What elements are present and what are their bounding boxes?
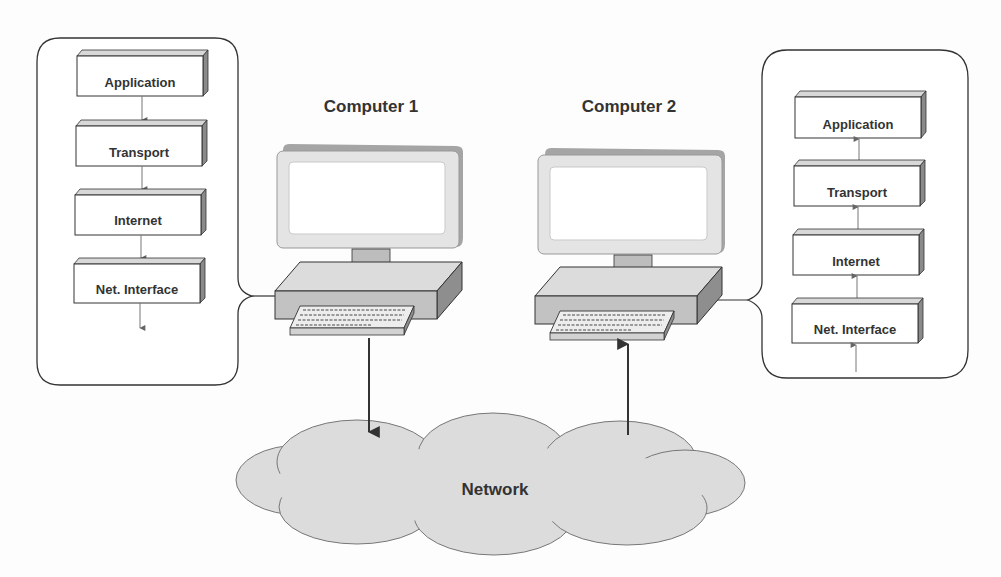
right-layer-transport: Transport [794, 160, 925, 206]
left-layer-net-interface: Net. Interface [74, 258, 205, 303]
layer-label: Internet [832, 254, 880, 269]
right-protocol-stack: Application Transport Internet Net. Inte… [748, 50, 968, 378]
computer-1-label: Computer 1 [324, 97, 418, 116]
computer-1: Computer 1 [275, 97, 463, 335]
layer-label: Net. Interface [96, 282, 178, 297]
left-protocol-stack: Application Transport Internet Net. Inte… [37, 38, 252, 385]
right-layer-application: Application [795, 91, 926, 138]
right-layer-internet: Internet [793, 229, 924, 275]
diagram-canvas: Application Transport Internet Net. Inte… [0, 0, 1001, 577]
computer-2-label: Computer 2 [582, 97, 676, 116]
layer-label: Internet [114, 213, 162, 228]
layer-label: Application [105, 75, 176, 90]
left-layer-internet: Internet [75, 189, 206, 235]
layer-label: Transport [827, 185, 888, 200]
network-cloud: Network [236, 413, 745, 555]
network-label: Network [461, 480, 529, 499]
computer-2: Computer 2 [535, 97, 725, 340]
left-layer-application: Application [77, 50, 208, 96]
layer-label: Transport [109, 145, 170, 160]
left-layer-transport: Transport [76, 120, 207, 166]
layer-label: Application [823, 117, 894, 132]
layer-label: Net. Interface [814, 322, 896, 337]
right-layer-net-interface: Net. Interface [792, 298, 923, 343]
